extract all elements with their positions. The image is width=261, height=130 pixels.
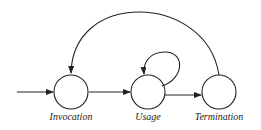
label-invocation: Invocation [50,111,93,122]
label-usage: Usage [135,111,161,122]
state-usage [131,75,165,109]
state-termination [202,75,236,109]
state-invocation [54,75,88,109]
usage-self-loop-arrow [144,52,180,86]
state-diagram: Invocation Usage Termination [0,0,261,130]
label-termination: Termination [195,111,244,122]
